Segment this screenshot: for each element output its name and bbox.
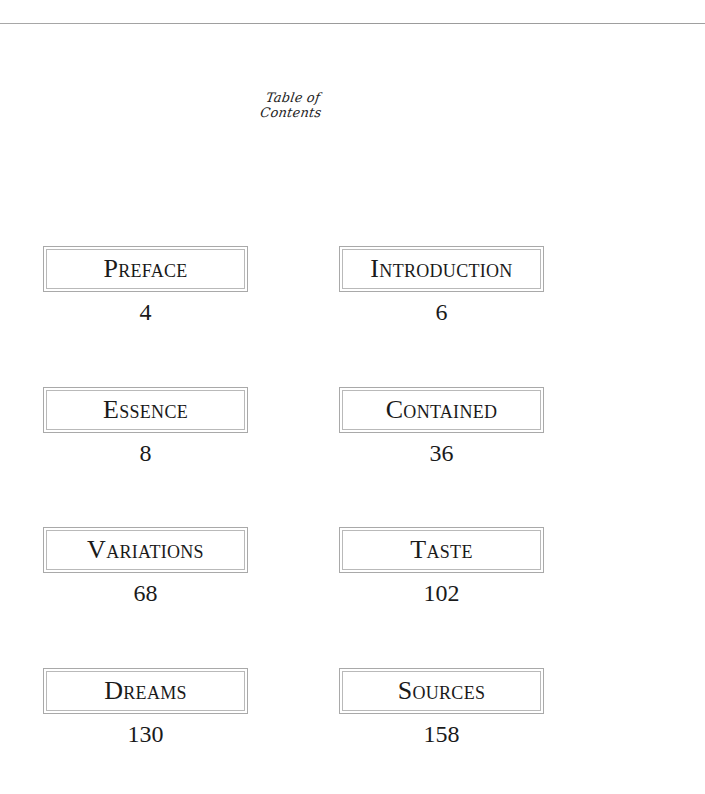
- top-divider-rule: [0, 23, 705, 24]
- toc-entry-box: Taste: [339, 527, 544, 573]
- toc-entry-box-inner: Sources: [342, 671, 541, 711]
- toc-entry-page-number: 8: [43, 439, 248, 467]
- toc-entry-box-inner: Dreams: [46, 671, 245, 711]
- page-title: Table of Contents: [234, 90, 350, 120]
- toc-entry-box: Preface: [43, 246, 248, 292]
- toc-entry-box: Essence: [43, 387, 248, 433]
- toc-entry-preface[interactable]: Preface 4: [43, 246, 248, 326]
- toc-entry-label: Variations: [87, 537, 204, 563]
- toc-entry-label: Introduction: [370, 256, 512, 282]
- toc-entry-label: Contained: [386, 397, 498, 423]
- toc-entry-introduction[interactable]: Introduction 6: [339, 246, 544, 326]
- toc-entry-page-number: 4: [43, 298, 248, 326]
- toc-entry-page-number: 130: [43, 720, 248, 748]
- toc-entry-label: Sources: [398, 678, 486, 704]
- toc-entry-box-inner: Variations: [46, 530, 245, 570]
- toc-entry-box-inner: Taste: [342, 530, 541, 570]
- toc-entry-label: Dreams: [104, 678, 187, 704]
- toc-entry-page-number: 6: [339, 298, 544, 326]
- toc-entry-dreams[interactable]: Dreams 130: [43, 668, 248, 748]
- toc-entry-label: Essence: [103, 397, 188, 423]
- toc-entry-box: Variations: [43, 527, 248, 573]
- toc-entry-box: Sources: [339, 668, 544, 714]
- toc-entry-taste[interactable]: Taste 102: [339, 527, 544, 607]
- toc-entry-box: Introduction: [339, 246, 544, 292]
- toc-entry-variations[interactable]: Variations 68: [43, 527, 248, 607]
- toc-entry-box-inner: Essence: [46, 390, 245, 430]
- toc-entry-box: Contained: [339, 387, 544, 433]
- toc-entry-box: Dreams: [43, 668, 248, 714]
- toc-entry-box-inner: Preface: [46, 249, 245, 289]
- toc-entry-label: Taste: [410, 537, 472, 563]
- toc-entry-page-number: 36: [339, 439, 544, 467]
- toc-entry-page-number: 102: [339, 579, 544, 607]
- toc-entry-contained[interactable]: Contained 36: [339, 387, 544, 467]
- toc-entry-box-inner: Introduction: [342, 249, 541, 289]
- toc-entry-page-number: 68: [43, 579, 248, 607]
- toc-entry-sources[interactable]: Sources 158: [339, 668, 544, 748]
- toc-entry-box-inner: Contained: [342, 390, 541, 430]
- toc-entry-page-number: 158: [339, 720, 544, 748]
- toc-entry-label: Preface: [103, 256, 187, 282]
- toc-entry-essence[interactable]: Essence 8: [43, 387, 248, 467]
